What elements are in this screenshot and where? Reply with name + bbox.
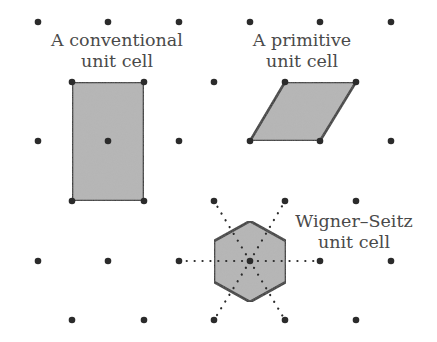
lattice-point (69, 317, 76, 324)
conventional-cell-label-line1: A conventional (22, 30, 212, 51)
lattice-point (282, 79, 289, 86)
lattice-point (176, 258, 183, 265)
primitive-unit-cell (250, 82, 356, 141)
lattice-point (105, 19, 112, 26)
lattice-point (176, 138, 183, 145)
lattice-point (69, 198, 76, 205)
lattice-point (35, 138, 42, 145)
conventional-cell-label-line2: unit cell (22, 51, 212, 72)
lattice-point (35, 258, 42, 265)
lattice-point (247, 258, 254, 265)
lattice-point (105, 258, 112, 265)
lattice-point (69, 79, 76, 86)
lattice-point (388, 19, 395, 26)
lattice-point (282, 317, 289, 324)
wigner-seitz-cell-label: Wigner–Seitz unit cell (284, 211, 424, 253)
unit-cells (72, 82, 356, 302)
lattice-point (353, 198, 360, 205)
lattice-point (317, 138, 324, 145)
lattice-point (247, 138, 254, 145)
lattice-point (211, 79, 218, 86)
lattice-point (141, 198, 148, 205)
lattice-point (317, 19, 324, 26)
lattice-point (353, 79, 360, 86)
lattice-point (211, 198, 218, 205)
lattice-point (317, 258, 324, 265)
lattice-point (247, 19, 254, 26)
lattice-point (388, 258, 395, 265)
primitive-cell-label-line1: A primitive (232, 30, 372, 51)
primitive-cell-label-line2: unit cell (232, 51, 372, 72)
lattice-point (105, 138, 112, 145)
lattice-point (141, 79, 148, 86)
wigner-seitz-cell-label-line1: Wigner–Seitz (284, 211, 424, 232)
lattice-point (211, 317, 218, 324)
primitive-cell-label: A primitive unit cell (232, 30, 372, 72)
lattice-point (176, 19, 183, 26)
lattice-point (141, 317, 148, 324)
lattice-point (282, 198, 289, 205)
wigner-seitz-cell-label-line2: unit cell (284, 232, 424, 253)
lattice-point (35, 19, 42, 26)
conventional-cell-label: A conventional unit cell (22, 30, 212, 72)
lattice-point (353, 317, 360, 324)
lattice-point (388, 138, 395, 145)
